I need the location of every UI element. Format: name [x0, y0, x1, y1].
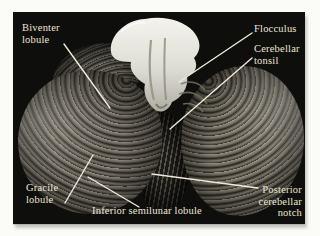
- biventer-leader-line: [64, 44, 110, 108]
- label-biventer-lobule: Biventer lobule: [22, 22, 60, 45]
- inferior-semilunar-leader-line: [88, 177, 139, 207]
- cerebellum-photograph: Biventer lobule Flocculus Cerebellar ton…: [13, 12, 305, 224]
- brainstem-shape: [111, 18, 200, 112]
- page: Biventer lobule Flocculus Cerebellar ton…: [0, 0, 320, 236]
- label-gracile-lobule: Gracile lobule: [26, 182, 58, 205]
- label-posterior-cerebellar-notch: Posterior cerebellar notch: [259, 184, 302, 219]
- label-flocculus: Flocculus: [254, 23, 297, 35]
- label-cerebellar-tonsil: Cerebellar tonsil: [254, 43, 300, 66]
- gracile-leader-line: [65, 155, 93, 203]
- label-inferior-semilunar-lobule: Inferior semilunar lobule: [92, 205, 222, 217]
- posterior-notch-leader-line: [152, 174, 258, 188]
